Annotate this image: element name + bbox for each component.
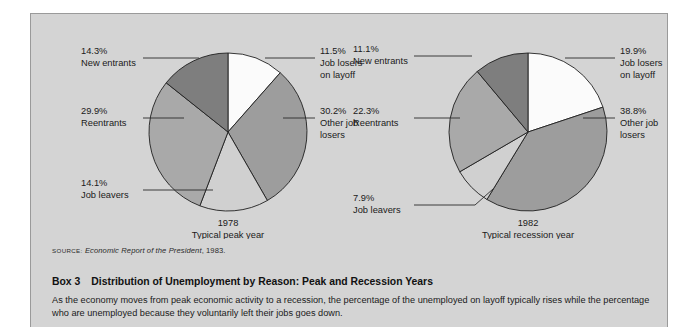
box-number: Box 3 xyxy=(52,276,80,287)
box-title-text: Distribution of Unemployment by Reason: … xyxy=(91,276,433,287)
source-title: Economic Report of the President xyxy=(85,246,202,255)
pie-label-other-job-losers-pct-1982: 38.8% xyxy=(620,106,646,116)
pie-label-job-losers-layoff-l1-1982: Job losers xyxy=(620,58,663,68)
pie-chart-1982: 11.1% New entrants 22.3% Reentrants 7.9%… xyxy=(353,44,663,239)
pie-label-other-job-losers-l2-1982: losers xyxy=(620,130,645,140)
pie-subtitle-1978: Typical peak year xyxy=(192,230,264,239)
pie-subtitle-1982: Typical recession year xyxy=(482,230,574,239)
source-note: SOURCE: Economic Report of the President… xyxy=(52,246,226,255)
pie-label-job-leavers-name-1982: Job leavers xyxy=(353,205,401,215)
pie-label-new-entrants-name-1978: New entrants xyxy=(81,58,136,68)
pie-label-job-losers-layoff-pct-1978: 11.5% xyxy=(320,46,346,56)
pie-label-job-losers-layoff-l2-1982: on layoff xyxy=(620,70,655,80)
pie-label-reentrants-name-1982: Reentrants xyxy=(353,118,399,128)
source-rest: , 1983. xyxy=(202,246,226,255)
pie-label-job-losers-layoff-l2-1978: on layoff xyxy=(320,70,355,80)
pie-label-job-leavers-name-1978: Job leavers xyxy=(81,190,129,200)
pie-label-reentrants-pct-1978: 29.9% xyxy=(81,106,107,116)
figure-panel: 14.3% New entrants 29.9% Reentrants 14.1… xyxy=(30,13,668,327)
pie-year-1982: 1982 xyxy=(518,218,539,228)
box-body-text: As the economy moves from peak economic … xyxy=(52,294,656,320)
charts-area: 14.3% New entrants 29.9% Reentrants 14.1… xyxy=(31,14,669,239)
pie-slices-1978 xyxy=(149,53,307,211)
source-kicker: SOURCE: xyxy=(52,247,83,254)
pie-label-other-job-losers-l2-1978: losers xyxy=(320,130,345,140)
pie-label-reentrants-name-1978: Reentrants xyxy=(81,118,127,128)
pie-label-job-losers-layoff-pct-1982: 19.9% xyxy=(620,46,646,56)
pie-label-new-entrants-name-1982: New entrants xyxy=(353,56,408,66)
pie-label-new-entrants-pct-1982: 11.1% xyxy=(353,44,379,54)
pie-year-1978: 1978 xyxy=(218,218,239,228)
box-heading: Box 3Distribution of Unemployment by Rea… xyxy=(52,276,433,287)
pie-label-reentrants-pct-1982: 22.3% xyxy=(353,106,379,116)
pie-label-job-leavers-pct-1978: 14.1% xyxy=(81,178,107,188)
pie-label-other-job-losers-l1-1982: Other job xyxy=(620,118,658,128)
pie-chart-1978: 14.3% New entrants 29.9% Reentrants 14.1… xyxy=(81,46,363,239)
pie-label-new-entrants-pct-1978: 14.3% xyxy=(81,46,107,56)
pie-charts-svg: 14.3% New entrants 29.9% Reentrants 14.1… xyxy=(31,14,669,239)
pie-slices-1982 xyxy=(449,53,607,211)
pie-label-job-leavers-pct-1982: 7.9% xyxy=(353,193,374,203)
pie-label-other-job-losers-pct-1978: 30.2% xyxy=(320,106,346,116)
